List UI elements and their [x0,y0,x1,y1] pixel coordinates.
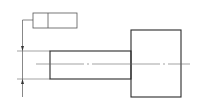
drawing-canvas [0,0,202,111]
shaft-body [50,51,131,79]
frame-border [33,13,77,28]
arrow-up-icon [21,79,24,84]
shaft-head [131,30,181,97]
leader-line [21,20,33,97]
arrow-down-icon [21,46,24,51]
feature-control-frame [33,13,77,28]
